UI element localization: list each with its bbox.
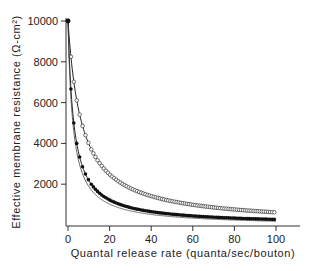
y-tick-label: 4000 <box>34 137 58 149</box>
fit-line <box>68 21 276 212</box>
data-point-open <box>94 155 98 159</box>
y-axis-title: Effective membrane resistance (Ω-cm²) <box>10 15 22 229</box>
x-tick-label: 60 <box>187 233 199 245</box>
data-point-filled <box>69 87 73 91</box>
x-axis-title: Quantal release rate (quanta/sec/bouton) <box>71 247 296 259</box>
data-point-filled <box>78 155 82 159</box>
data-point-filled <box>273 218 277 222</box>
series-filled-circle <box>66 19 276 221</box>
series-open-circle <box>66 19 276 214</box>
data-point-open <box>84 133 88 137</box>
origin-point <box>66 19 71 24</box>
y-tick-label: 6000 <box>34 97 58 109</box>
y-tick-label: 8000 <box>34 56 58 68</box>
data-point-open <box>273 210 277 214</box>
series-group <box>66 19 277 222</box>
data-point-filled <box>72 121 76 125</box>
x-tick-label: 80 <box>228 233 240 245</box>
data-point-open <box>81 124 85 128</box>
data-point-open <box>87 141 91 145</box>
x-tick-label: 0 <box>65 233 71 245</box>
fit-line <box>68 21 276 219</box>
data-point-open <box>72 80 76 84</box>
data-point-open <box>89 148 93 152</box>
data-point-filled <box>84 172 88 176</box>
chart: 200040006000800010000020406080100 Quanta… <box>0 0 310 271</box>
data-point-open <box>78 113 82 117</box>
data-point-open <box>75 99 79 103</box>
y-tick-label: 10000 <box>27 15 58 27</box>
data-point-filled <box>87 178 91 182</box>
data-point-open <box>92 152 96 156</box>
data-point-filled <box>81 165 85 169</box>
data-point-filled <box>75 142 79 146</box>
x-tick-label: 20 <box>103 233 115 245</box>
y-tick-label: 2000 <box>34 178 58 190</box>
x-tick-label: 100 <box>267 233 285 245</box>
x-tick-label: 40 <box>145 233 157 245</box>
